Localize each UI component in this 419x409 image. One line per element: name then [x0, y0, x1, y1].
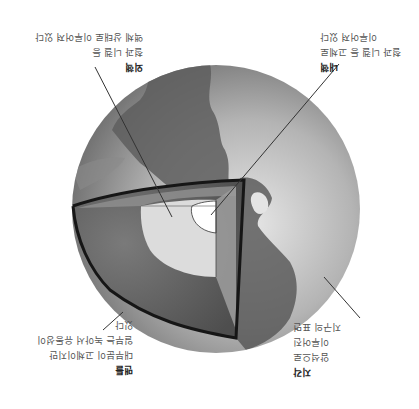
earth-structure-diagram: 외핵 철과 니켈 등 액체 상태로 이루어져 있다 내핵 철과 니켈 등 고체로… — [0, 0, 419, 409]
label-crust-line: 이루어진 — [293, 335, 341, 350]
label-crust-line: 지구의 표면 — [293, 320, 341, 335]
label-crust-title: 지각 — [293, 365, 341, 380]
label-crust-line: 암석으로 — [293, 350, 341, 365]
label-outer-core-line: 철과 니켈 등 — [35, 45, 143, 60]
label-inner-core: 내핵 철과 니켈 등 고체로 이루어져 있다 — [320, 30, 401, 75]
label-mantle-title: 맨틀 — [37, 363, 133, 378]
label-inner-core-line: 철과 니켈 등 고체로 — [320, 45, 401, 60]
label-outer-core: 외핵 철과 니켈 등 액체 상태로 이루어져 있다 — [35, 30, 143, 75]
label-outer-core-line: 액체 상태로 이루어져 있다 — [35, 30, 143, 45]
label-mantle-line: 대부분이 고체이지만 — [37, 348, 133, 363]
label-mantle-line: 일부는 녹아서 유동성이 — [37, 333, 133, 348]
label-outer-core-title: 외핵 — [35, 60, 143, 75]
label-mantle-line: 있다 — [37, 318, 133, 333]
label-mantle: 맨틀 대부분이 고체이지만 일부는 녹아서 유동성이 있다 — [37, 318, 133, 378]
label-crust: 지각 암석으로 이루어진 지구의 표면 — [293, 320, 341, 380]
label-inner-core-title: 내핵 — [320, 60, 401, 75]
label-inner-core-line: 이루어져 있다 — [320, 30, 401, 45]
